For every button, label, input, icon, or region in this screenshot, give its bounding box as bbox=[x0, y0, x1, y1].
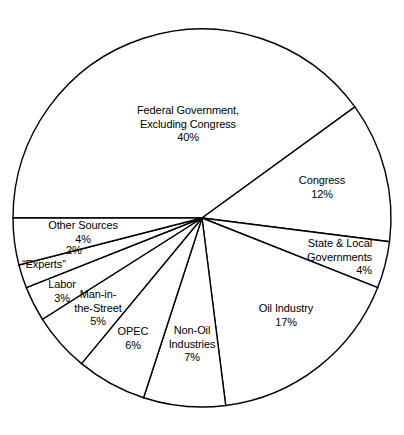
slice-label: State & LocalGovernments4% bbox=[258, 237, 372, 278]
slice-label-value: 6% bbox=[108, 339, 158, 353]
pie-chart: Federal Government,Excluding Congress40%… bbox=[0, 0, 404, 435]
slice-label: Other Sources4% bbox=[38, 219, 128, 246]
slice-label-name: Non-Oil bbox=[161, 324, 223, 338]
slice-label-name: Labor bbox=[38, 278, 86, 292]
slice-label-value: 4% bbox=[258, 264, 372, 278]
slice-label: Non-OilIndustries7% bbox=[161, 324, 223, 365]
slice-label: “Experts” bbox=[22, 258, 88, 272]
slice-label-name: “Experts” bbox=[22, 258, 88, 272]
slice-label-name-continued: Excluding Congress bbox=[118, 118, 258, 132]
slice-label-name-continued: Governments bbox=[258, 251, 372, 265]
slice-label-value: 7% bbox=[161, 351, 223, 365]
slice-label: Oil Industry17% bbox=[238, 302, 334, 329]
slice-label-name: Federal Government, bbox=[118, 104, 258, 118]
slice-label-name-continued: Industries bbox=[161, 338, 223, 352]
slice-label-value: 40% bbox=[118, 131, 258, 145]
slice-label: Federal Government,Excluding Congress40% bbox=[118, 104, 258, 145]
slice-label-value: 12% bbox=[277, 188, 367, 202]
slice-label-value: 5% bbox=[64, 315, 132, 329]
slice-label: OPEC6% bbox=[108, 325, 158, 352]
slice-label-name: Other Sources bbox=[38, 219, 128, 233]
slice-label-name: State & Local bbox=[258, 237, 372, 251]
slice-label-value: 4% bbox=[38, 233, 128, 247]
slice-label-name: Congress bbox=[277, 174, 367, 188]
slice-label-value: 3% bbox=[38, 292, 86, 306]
slice-label-value: 17% bbox=[238, 316, 334, 330]
pie-chart-svg bbox=[0, 0, 404, 435]
slice-label-value: 2% bbox=[66, 244, 82, 258]
slice-label-name: Oil Industry bbox=[238, 302, 334, 316]
slice-label: Congress12% bbox=[277, 174, 367, 201]
slice-label: Labor3% bbox=[38, 278, 86, 305]
